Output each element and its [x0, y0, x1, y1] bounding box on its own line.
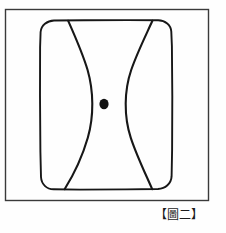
- caption-close-bracket: 】: [191, 209, 203, 221]
- caption-label: 圖二: [167, 209, 191, 221]
- figure-drawing: [0, 0, 226, 233]
- caption-open-bracket: 【: [155, 209, 167, 221]
- center-point-dot: [99, 99, 108, 109]
- figure-page: 【 圖二 】: [0, 0, 226, 233]
- figure-caption: 【 圖二 】: [150, 205, 208, 225]
- page-background: [0, 0, 226, 233]
